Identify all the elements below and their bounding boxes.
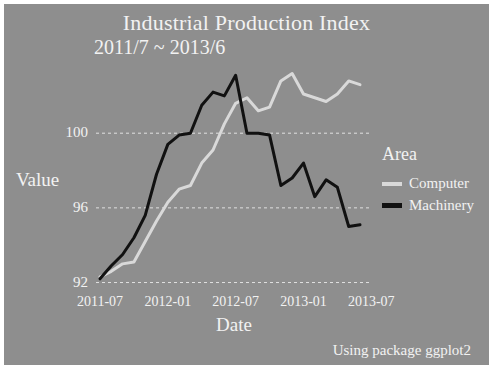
chart-title: Industrial Production Index (4, 10, 489, 36)
legend-entry-machinery[interactable]: Machinery (382, 197, 490, 214)
legend-label: Machinery (409, 197, 474, 214)
legend-key-icon (382, 203, 402, 208)
plot-panel (96, 66, 372, 290)
y-tick-label: 100 (46, 124, 88, 141)
series-line-computer (100, 73, 360, 276)
x-tick-label: 2012-01 (144, 294, 191, 310)
y-tick-label: 92 (46, 274, 88, 291)
plot-canvas: Industrial Production Index 2011/7 ~ 201… (4, 4, 489, 365)
series-lines (100, 73, 360, 278)
chart-subtitle: 2011/7 ~ 2013/6 (94, 36, 225, 59)
x-tick-label: 2013-07 (348, 294, 395, 310)
legend-title: Area (382, 144, 490, 165)
legend-label: Computer (409, 175, 469, 192)
series-canvas (96, 66, 372, 290)
legend-entry-computer[interactable]: Computer (382, 175, 490, 192)
plot-caption: Using package ggplot2 (333, 342, 471, 359)
x-tick-label: 2013-01 (280, 294, 327, 310)
legend-entries: ComputerMachinery (382, 175, 490, 214)
legend: Area ComputerMachinery (382, 144, 490, 219)
chart-screenshot: Industrial Production Index 2011/7 ~ 201… (0, 0, 493, 369)
gridlines (96, 133, 372, 282)
y-axis-title: Value (16, 169, 59, 191)
x-axis-title: Date (96, 314, 372, 336)
series-line-machinery (100, 75, 360, 278)
y-tick-label: 96 (46, 199, 88, 216)
legend-key-icon (382, 182, 402, 186)
x-tick-label: 2011-07 (77, 294, 123, 310)
x-tick-label: 2012-07 (212, 294, 259, 310)
